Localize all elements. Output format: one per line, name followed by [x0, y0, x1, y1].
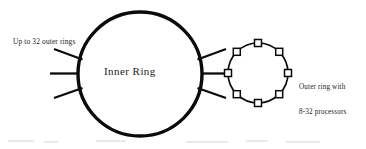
ring-topology-figure: Up to 32 outer rings Inner Ring Outer ri…: [0, 0, 366, 149]
processor-node-s: [255, 100, 262, 107]
processor-node-w: [225, 70, 232, 77]
processor-node-se: [276, 91, 283, 98]
left-spoke-lower: [54, 88, 83, 98]
processor-node-ne: [276, 48, 283, 55]
processor-node-nw: [233, 48, 240, 55]
processor-node-n: [255, 40, 262, 47]
left-spoke-upper: [54, 49, 83, 60]
right-annotation-label: Outer ring with 8-32 processors: [299, 66, 346, 134]
processor-node-sw: [233, 91, 240, 98]
right-spoke-lower: [198, 88, 227, 98]
inner-ring-label: Inner Ring: [104, 65, 156, 78]
right-annotation-line-1: Outer ring with: [299, 83, 346, 91]
outer-ring-nodes-group: [225, 40, 292, 107]
left-spokes-group: [50, 49, 83, 98]
left-annotation-label: Up to 32 outer rings: [13, 38, 76, 47]
right-annotation-line-2: 8-32 processors: [299, 108, 346, 116]
processor-node-e: [285, 70, 292, 77]
right-spoke-upper: [198, 49, 227, 60]
